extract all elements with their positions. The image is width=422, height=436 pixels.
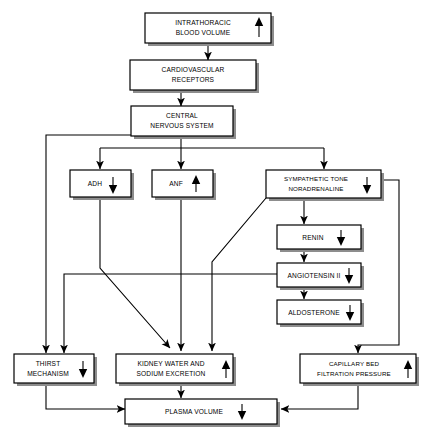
node-box (300, 354, 416, 383)
node-label-line1: CENTRAL (166, 112, 198, 119)
node-label-line2: SODIUM EXCRETION (136, 370, 205, 377)
node-label-line2: BLOOD VOLUME (176, 29, 231, 36)
node-label-line2: FILTRATION PRESSURE (317, 370, 391, 377)
node-label-line1: ANF (169, 180, 183, 187)
node-label-line2: NORADRENALINE (288, 185, 343, 192)
node-central-nervous-system[interactable]: CENTRAL NERVOUS SYSTEM (131, 106, 236, 139)
node-anf[interactable]: ANF (152, 170, 216, 200)
connector-angiotensin-to-thirst (64, 274, 277, 353)
node-adh[interactable]: ADH (70, 170, 134, 200)
node-box (14, 354, 94, 383)
flowchart-canvas: INTRATHORACIC BLOOD VOLUME CARDIOVASCULA… (0, 0, 422, 436)
node-label-line1: ALDOSTERONE (288, 309, 340, 316)
node-label-line1: ADH (88, 180, 102, 187)
node-sympathetic-tone-noradrenaline[interactable]: SYMPATHETIC TONE NORADRENALINE (266, 170, 384, 201)
node-label-line1: SYMPATHETIC TONE (284, 175, 348, 182)
node-box (145, 13, 271, 43)
connector-thirst-to-plasma (46, 384, 125, 409)
node-label-line1: ANGIOTENSIN II (287, 272, 340, 279)
connector-capillary-to-plasma (281, 384, 358, 409)
node-label-line1: CARDIOVASCULAR (162, 66, 225, 73)
node-aldosterone[interactable]: ALDOSTERONE (277, 300, 364, 327)
node-angiotensin-ii[interactable]: ANGIOTENSIN II (277, 263, 364, 290)
node-thirst-mechanism[interactable]: THIRST MECHANISM (14, 354, 97, 386)
node-label-line1: PLASMA VOLUME (165, 408, 223, 415)
node-intrathoracic-blood-volume[interactable]: INTRATHORACIC BLOOD VOLUME (145, 13, 274, 46)
node-cardiovascular-receptors[interactable]: CARDIOVASCULAR RECEPTORS (130, 60, 259, 93)
node-label-line1: THIRST (36, 360, 61, 367)
node-capillary-bed-filtration-pressure[interactable]: CAPILLARY BED FILTRATION PRESSURE (300, 354, 419, 386)
node-label-line2: MECHANISM (27, 370, 69, 377)
flowchart-svg: INTRATHORACIC BLOOD VOLUME CARDIOVASCULA… (0, 0, 422, 436)
node-box (131, 106, 233, 136)
connector-adh-to-kidney (100, 197, 170, 348)
node-box (116, 354, 233, 383)
connector-cns-to-thirst (46, 135, 131, 353)
connector-sympathetic-to-capillary (358, 180, 399, 353)
node-plasma-volume[interactable]: PLASMA VOLUME (125, 399, 280, 427)
node-label-line1: KIDNEY WATER AND (137, 360, 204, 367)
node-box (130, 60, 256, 90)
node-label-line1: RENIN (302, 234, 323, 241)
node-label-line2: RECEPTORS (172, 76, 215, 83)
node-label-line1: CAPILLARY BED (329, 360, 380, 367)
node-label-line1: INTRATHORACIC (175, 19, 231, 26)
node-renin[interactable]: RENIN (277, 225, 364, 252)
node-label-line2: NERVOUS SYSTEM (150, 122, 214, 129)
node-kidney-water-and-sodium-excretion[interactable]: KIDNEY WATER AND SODIUM EXCRETION (116, 354, 236, 386)
